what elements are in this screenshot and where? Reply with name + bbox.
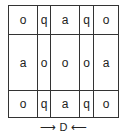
grid-cell: o	[9, 6, 37, 34]
grid-cell: q	[80, 91, 93, 117]
grid-cell: o	[51, 35, 79, 90]
grid-cell: o	[94, 6, 118, 34]
grid-cell: a	[51, 6, 79, 34]
letter-grid: o q a q o a o o o a o q a q o	[8, 5, 119, 118]
grid-cell: q	[38, 6, 50, 34]
grid-cell: o	[9, 91, 37, 117]
grid-cell: q	[80, 6, 93, 34]
grid-cell: o	[94, 91, 118, 117]
arrow-right-icon: ⟶	[40, 121, 56, 134]
grid-cell: o	[80, 35, 93, 90]
grid-cell: o	[38, 35, 50, 90]
grid-cell: a	[94, 35, 118, 90]
grid-cell: a	[51, 91, 79, 117]
dimension-label: D	[60, 121, 68, 133]
dimension-caption: ⟶ D ⟵	[0, 120, 127, 134]
grid-cell: q	[38, 91, 50, 117]
arrow-left-icon: ⟵	[71, 121, 87, 134]
grid-cell: a	[9, 35, 37, 90]
